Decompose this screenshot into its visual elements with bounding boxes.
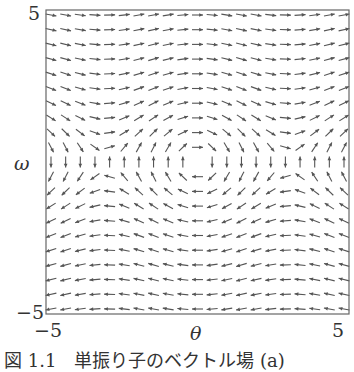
arrow-head-icon bbox=[148, 307, 152, 311]
arrow-head-icon bbox=[221, 278, 225, 282]
arrow-head-icon bbox=[330, 72, 334, 75]
arrow-head-icon bbox=[192, 175, 196, 179]
arrow-head-icon bbox=[287, 72, 291, 76]
arrow-head-icon bbox=[52, 28, 56, 32]
arrow-head-icon bbox=[287, 28, 291, 32]
arrow-head-icon bbox=[339, 248, 343, 251]
arrow-head-icon bbox=[97, 13, 101, 17]
arrow-head-icon bbox=[328, 157, 332, 161]
arrow-head-icon bbox=[178, 204, 182, 207]
arrow-head-icon bbox=[298, 157, 302, 161]
arrow-head-icon bbox=[199, 13, 203, 17]
arrow-head-icon bbox=[111, 72, 115, 76]
arrow-head-icon bbox=[75, 278, 79, 282]
arrow-head-icon bbox=[93, 164, 97, 168]
arrow-head-icon bbox=[89, 307, 93, 311]
y-axis-label: ω bbox=[14, 152, 30, 174]
arrow-head-icon bbox=[207, 234, 211, 238]
arrow-head-icon bbox=[89, 278, 93, 282]
arrow-head-icon bbox=[64, 164, 68, 168]
arrow-head-icon bbox=[75, 263, 79, 267]
arrow-head-icon bbox=[280, 248, 284, 252]
arrow-head-icon bbox=[280, 278, 284, 282]
arrow-head-icon bbox=[60, 293, 64, 297]
arrow-head-icon bbox=[324, 307, 328, 311]
arrow-head-icon bbox=[97, 43, 101, 47]
arrow-head-icon bbox=[97, 28, 101, 32]
arrow-head-icon bbox=[228, 87, 232, 90]
arrow-head-icon bbox=[133, 307, 137, 311]
arrow-head-icon bbox=[213, 117, 217, 120]
arrow-head-icon bbox=[302, 42, 306, 46]
arrow-head-icon bbox=[89, 293, 93, 297]
arrow-head-icon bbox=[155, 72, 159, 75]
arrow-head-icon bbox=[181, 157, 185, 161]
arrow-head-icon bbox=[67, 73, 71, 76]
arrow-head-icon bbox=[192, 190, 196, 194]
arrow-head-icon bbox=[111, 101, 115, 105]
arrow-head-icon bbox=[199, 87, 203, 91]
arrow-head-icon bbox=[140, 86, 144, 89]
arrow-head-icon bbox=[339, 292, 343, 296]
arrow-head-icon bbox=[49, 164, 53, 168]
arrow-head-icon bbox=[199, 57, 203, 61]
arrow-head-icon bbox=[207, 205, 211, 208]
arrow-head-icon bbox=[67, 14, 71, 18]
arrow-head-icon bbox=[199, 43, 203, 47]
arrow-head-icon bbox=[287, 43, 291, 47]
arrow-head-icon bbox=[210, 164, 214, 168]
arrow-head-icon bbox=[302, 13, 306, 17]
arrow-head-icon bbox=[104, 248, 108, 252]
arrow-head-icon bbox=[254, 164, 258, 168]
arrow-head-icon bbox=[302, 28, 306, 32]
arrow-head-icon bbox=[280, 307, 284, 311]
arrow-head-icon bbox=[111, 28, 115, 32]
arrow-head-icon bbox=[134, 292, 138, 296]
arrow-head-icon bbox=[184, 116, 188, 119]
arrow-head-icon bbox=[122, 157, 126, 161]
arrow-head-icon bbox=[111, 57, 115, 61]
x-tick-right: 5 bbox=[332, 321, 344, 340]
arrow-head-icon bbox=[104, 234, 108, 238]
arrow-head-icon bbox=[265, 249, 269, 253]
arrow-head-icon bbox=[199, 131, 203, 135]
arrow-head-icon bbox=[295, 189, 299, 192]
arrow-head-icon bbox=[137, 157, 141, 161]
arrow-head-icon bbox=[287, 13, 291, 17]
arrow-head-icon bbox=[331, 13, 335, 17]
arrow-head-icon bbox=[104, 219, 108, 223]
plot-frame bbox=[46, 10, 349, 314]
arrow-head-icon bbox=[301, 130, 305, 133]
arrow-head-icon bbox=[126, 72, 130, 76]
arrow-head-icon bbox=[166, 157, 170, 161]
arrow-head-icon bbox=[295, 278, 299, 282]
arrow-head-icon bbox=[90, 190, 94, 193]
x-tick-left: −5 bbox=[34, 321, 62, 340]
arrow-head-icon bbox=[280, 234, 284, 238]
arrow-head-icon bbox=[104, 263, 108, 267]
arrow-head-icon bbox=[155, 13, 159, 17]
arrow-head-icon bbox=[140, 13, 144, 17]
arrow-head-icon bbox=[228, 43, 232, 47]
arrow-head-icon bbox=[163, 233, 167, 236]
arrow-head-icon bbox=[280, 293, 284, 297]
arrow-head-icon bbox=[284, 164, 288, 168]
arrow-head-icon bbox=[309, 263, 313, 267]
arrow-head-icon bbox=[280, 204, 284, 208]
arrow-head-icon bbox=[339, 307, 343, 311]
arrow-head-icon bbox=[295, 292, 299, 296]
arrow-head-icon bbox=[67, 28, 71, 32]
arrow-head-icon bbox=[331, 28, 335, 32]
arrow-head-icon bbox=[287, 116, 291, 120]
arrow-head-icon bbox=[192, 263, 196, 267]
arrow-head-icon bbox=[324, 292, 328, 296]
arrow-head-icon bbox=[199, 145, 203, 149]
arrow-head-icon bbox=[111, 43, 115, 47]
arrow-head-icon bbox=[243, 28, 247, 32]
arrow-head-icon bbox=[134, 233, 138, 236]
arrow-head-icon bbox=[52, 73, 56, 76]
arrow-head-icon bbox=[257, 28, 261, 32]
arrow-head-icon bbox=[324, 248, 328, 251]
arrow-head-icon bbox=[199, 101, 203, 105]
x-axis-label: θ bbox=[190, 322, 201, 344]
